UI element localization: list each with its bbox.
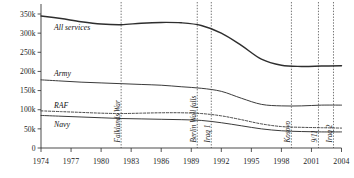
x-tick-label: 1992: [213, 157, 229, 166]
event-label-falklands-war: Falklands War: [114, 100, 122, 143]
event-label-kosovo: Kosovo: [284, 121, 292, 144]
x-tick-label: 2004: [333, 157, 349, 166]
series-label-group: All servicesArmyRAFNavy: [53, 23, 90, 128]
y-tick-label: 0: [32, 144, 36, 153]
x-tick-label: 1977: [63, 157, 79, 166]
x-tick-label: 1989: [183, 157, 199, 166]
event-label-9-11: 9/11: [311, 130, 319, 142]
x-tick-label: 2001: [303, 157, 319, 166]
y-tick-group: 050k100k150k200k250k300k350k: [20, 10, 41, 153]
x-tick-group: 1974197719801983198619891992199519982001…: [33, 148, 350, 166]
x-tick-label: 1974: [33, 157, 49, 166]
event-label-iraq-1: Iraq 1: [204, 125, 212, 144]
x-tick-label: 1983: [123, 157, 139, 166]
y-tick-label: 100k: [20, 105, 36, 114]
x-tick-label: 1986: [153, 157, 169, 166]
y-tick-label: 250k: [20, 48, 36, 57]
event-label-iraq-2: Iraq 2: [326, 124, 334, 143]
y-tick-label: 150k: [20, 86, 36, 95]
event-rule-group: [121, 2, 333, 148]
line-chart: 050k100k150k200k250k300k350k 19741977198…: [0, 0, 354, 178]
y-tick-label: 50k: [24, 125, 36, 134]
y-tick-label: 300k: [20, 29, 36, 38]
series-label-army: Army: [53, 69, 71, 78]
chart-container: 050k100k150k200k250k300k350k 19741977198…: [0, 0, 354, 178]
event-label-berlin-wall-falls: Berlin Wall falls: [190, 95, 198, 142]
series-label-raf: RAF: [53, 101, 69, 110]
x-tick-label: 1995: [243, 157, 259, 166]
series-label-all-services: All services: [53, 23, 90, 32]
y-tick-label: 200k: [20, 67, 36, 76]
x-tick-label: 1998: [273, 157, 289, 166]
x-tick-label: 1980: [93, 157, 109, 166]
series-label-navy: Navy: [53, 120, 71, 129]
y-tick-label: 350k: [20, 10, 36, 19]
